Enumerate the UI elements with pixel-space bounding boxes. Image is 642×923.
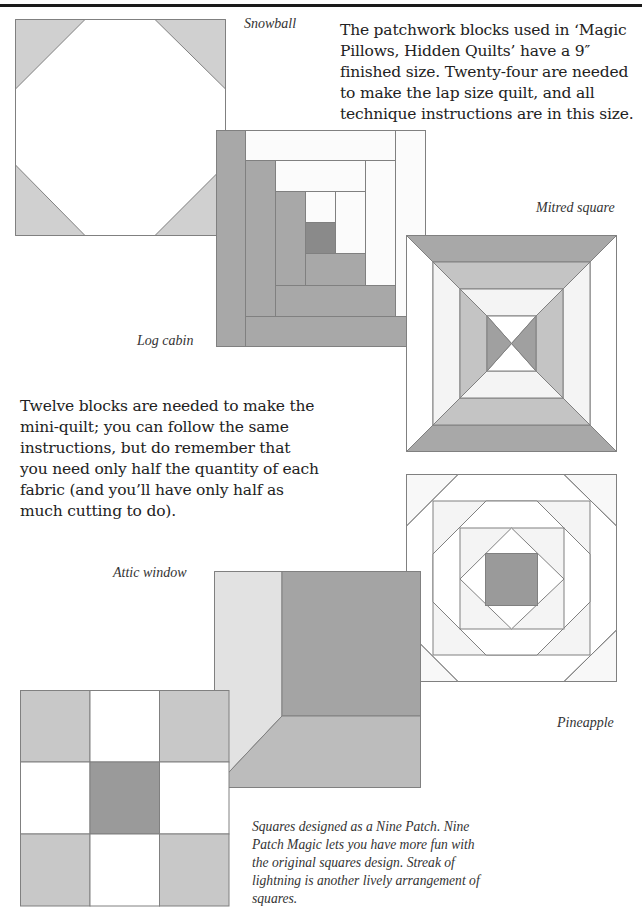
caption-snowball: Snowball — [244, 16, 296, 32]
caption-pineapple: Pineapple — [557, 715, 614, 731]
log-cabin-block — [216, 130, 428, 350]
mitred-square-block — [406, 235, 618, 455]
intro-paragraph: The patchwork blocks used in ‘Magic Pill… — [340, 20, 640, 125]
caption-mitred-square: Mitred square — [536, 200, 615, 216]
page-top-rule — [0, 4, 642, 7]
caption-log-cabin: Log cabin — [137, 333, 193, 349]
snowball-block — [15, 19, 227, 239]
pineapple-block — [406, 474, 618, 686]
caption-attic-window: Attic window — [113, 565, 187, 581]
nine-patch-note: Squares designed as a Nine Patch. Nine P… — [252, 818, 482, 908]
nine-patch-block — [20, 690, 232, 910]
mini-quilt-paragraph: Twelve blocks are needed to make the min… — [20, 396, 320, 522]
attic-window-block — [214, 571, 424, 791]
